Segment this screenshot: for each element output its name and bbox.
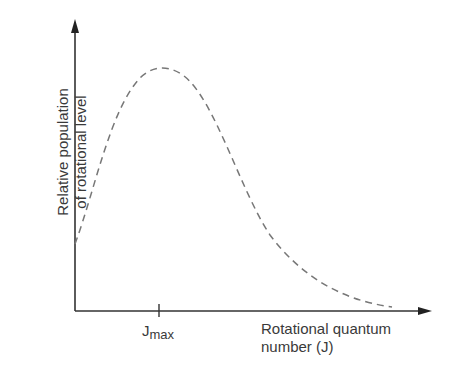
x-axis-label-line2: number (J) xyxy=(261,338,391,356)
x-axis-label-line1: Rotational quantum xyxy=(261,320,391,338)
x-axis-arrow-icon xyxy=(418,307,432,315)
y-axis-arrow-icon xyxy=(71,19,79,33)
jmax-label: Jmax xyxy=(142,322,174,341)
y-axis-label: Relative population of rotational level xyxy=(54,32,90,272)
y-axis-label-line1: Relative population xyxy=(54,32,72,272)
y-axis-label-line2: of rotational level xyxy=(72,32,90,272)
jmax-label-sub: max xyxy=(150,327,175,342)
x-axis-label: Rotational quantum number (J) xyxy=(261,320,391,356)
population-curve xyxy=(75,68,392,307)
jmax-label-main: J xyxy=(142,322,150,339)
